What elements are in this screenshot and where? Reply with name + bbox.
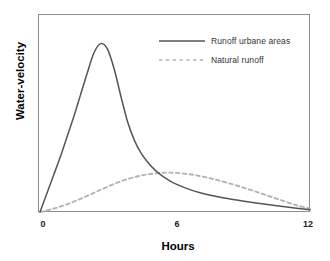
x-axis-title: Hours [118, 240, 238, 252]
legend-item-natural-runoff: Natural runoff [159, 50, 309, 69]
series-line-natural-runoff [40, 173, 310, 212]
plot-area: Runoff urbane areas Natural runoff [38, 14, 310, 212]
legend-dashed-line-icon [159, 55, 205, 65]
x-tick-label-6: 6 [157, 219, 197, 229]
x-tick-label-12: 12 [288, 219, 328, 229]
legend-item-runoff-urbane-areas: Runoff urbane areas [159, 31, 309, 50]
x-tick-label-0: 0 [23, 219, 63, 229]
chart-figure: Water-velocity Runoff urbane areas Natur… [0, 0, 330, 261]
legend-solid-line-icon [159, 36, 205, 46]
legend-label-natural-runoff: Natural runoff [211, 55, 264, 65]
y-axis-title: Water-velocity [14, 21, 26, 141]
legend-label-runoff-urbane-areas: Runoff urbane areas [211, 36, 290, 46]
legend: Runoff urbane areas Natural runoff [159, 31, 309, 69]
